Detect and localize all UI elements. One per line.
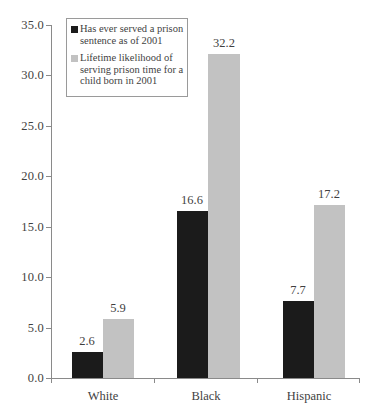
y-axis-label-35: 35.0: [0, 19, 44, 31]
x-axis-tick: [154, 378, 155, 383]
legend-label-served: Has ever served a prisonsentence as of 2…: [80, 23, 183, 46]
x-axis-tick: [51, 378, 52, 383]
legend-label-lifetime-line2: serving prison time for a: [80, 64, 183, 75]
y-axis-label-20: 20.0: [0, 170, 44, 182]
legend-item-served: Has ever served a prisonsentence as of 2…: [71, 23, 184, 46]
legend-item-lifetime: Lifetime likelihood ofserving prison tim…: [71, 52, 184, 87]
y-axis-tick: [46, 277, 51, 278]
legend-swatch-light-icon: [71, 55, 78, 62]
x-axis-tick: [359, 378, 360, 383]
x-axis-tick: [257, 378, 258, 383]
y-axis-label-0: 0.0: [0, 372, 44, 384]
bar-black-lifetime: [208, 54, 240, 378]
y-axis-label-30: 30.0: [0, 69, 44, 81]
bar-chart: 35.0 30.0 25.0 20.0 15.0 10.0 5.0 0.0 2.…: [0, 0, 382, 412]
y-axis-label-5: 5.0: [0, 322, 44, 334]
y-axis-label-15: 15.0: [0, 221, 44, 233]
legend-label-lifetime: Lifetime likelihood ofserving prison tim…: [80, 52, 183, 87]
legend-label-served-line2: sentence as of 2001: [80, 35, 163, 46]
bar-value-black-served: 16.6: [162, 194, 222, 207]
x-axis-label-white: White: [43, 389, 163, 403]
x-axis-line: [51, 378, 360, 379]
y-axis-label-25: 25.0: [0, 120, 44, 132]
legend-label-served-line1: Has ever served a prison: [80, 23, 183, 34]
y-axis-tick: [46, 75, 51, 76]
legend-swatch-dark-icon: [71, 26, 78, 33]
bar-value-black-lifetime: 32.2: [194, 37, 254, 50]
bar-value-white-lifetime: 5.9: [88, 302, 148, 315]
chart-legend: Has ever served a prisonsentence as of 2…: [66, 18, 188, 97]
legend-label-lifetime-line1: Lifetime likelihood of: [80, 52, 173, 63]
bar-white-lifetime: [103, 319, 134, 378]
legend-label-lifetime-line3: child born in 2001: [80, 75, 157, 86]
bar-white-served: [72, 352, 103, 378]
y-axis-tick: [46, 227, 51, 228]
y-axis-tick: [46, 25, 51, 26]
bar-value-hispanic-served: 7.7: [268, 284, 328, 297]
bar-value-hispanic-lifetime: 17.2: [299, 188, 359, 201]
y-axis-line: [51, 25, 52, 378]
y-axis-tick: [46, 328, 51, 329]
bar-hispanic-served: [283, 301, 314, 378]
bar-black-served: [177, 211, 208, 378]
bar-value-white-served: 2.6: [57, 335, 117, 348]
x-axis-label-black: Black: [146, 389, 266, 403]
y-axis-tick: [46, 126, 51, 127]
x-axis-label-hispanic: Hispanic: [249, 389, 369, 403]
y-axis-label-10: 10.0: [0, 271, 44, 283]
y-axis-tick: [46, 176, 51, 177]
